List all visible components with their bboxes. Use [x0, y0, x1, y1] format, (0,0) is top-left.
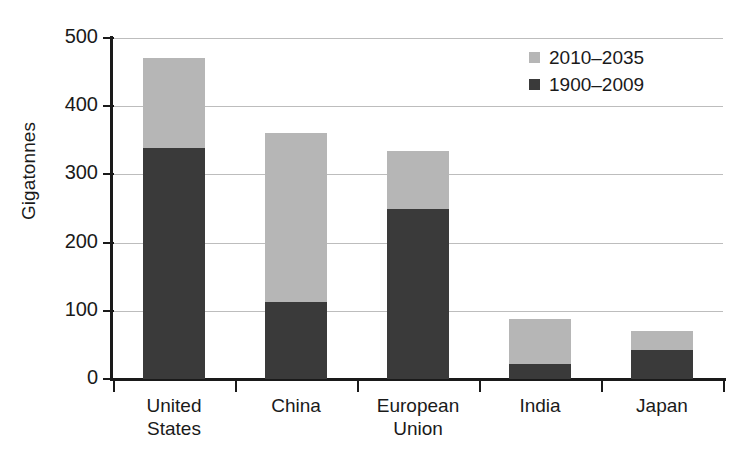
bar-segment-2010-2035 [631, 331, 693, 349]
bar-segment-2010-2035 [509, 319, 571, 364]
category-label-line: States [113, 417, 235, 440]
category-label-line: China [235, 394, 357, 417]
x-tick-mark [723, 381, 725, 392]
category-label-line: Union [357, 417, 479, 440]
bar-united-states [143, 58, 205, 379]
bar-segment-2010-2035 [143, 58, 205, 148]
stacked-bar-chart: Gigatonnes 0100200300400500 UnitedStates… [0, 0, 747, 464]
y-tick-label: 400 [40, 93, 98, 116]
category-label-line: Japan [601, 394, 723, 417]
bar-european-union [387, 151, 449, 379]
x-tick-mark [479, 381, 481, 392]
category-label-line: European [357, 394, 479, 417]
category-label-line: United [113, 394, 235, 417]
x-tick-mark [113, 381, 115, 392]
bar-segment-2010-2035 [265, 133, 327, 301]
y-tick-label: 100 [40, 298, 98, 321]
bar-segment-1900-2009 [509, 364, 571, 379]
category-label-india: India [479, 394, 601, 417]
bar-segment-1900-2009 [265, 302, 327, 379]
y-tick-label: 200 [40, 230, 98, 253]
legend-swatch-light [529, 52, 540, 63]
legend-item: 1900–2009 [529, 71, 719, 98]
category-label-japan: Japan [601, 394, 723, 417]
bar-segment-2010-2035 [387, 151, 449, 209]
y-tick-label: 0 [40, 366, 98, 389]
legend-swatch-dark [529, 79, 540, 90]
legend: 2010–20351900–2009 [529, 44, 719, 98]
y-tick-label: 300 [40, 161, 98, 184]
x-tick-mark [235, 381, 237, 392]
bar-india [509, 319, 571, 379]
category-label-china: China [235, 394, 357, 417]
y-axis-title: Gigatonnes [18, 96, 40, 246]
legend-item: 2010–2035 [529, 44, 719, 71]
bar-japan [631, 331, 693, 379]
legend-label: 1900–2009 [549, 74, 644, 96]
bar-segment-1900-2009 [143, 148, 205, 379]
category-label-line: India [479, 394, 601, 417]
bar-segment-1900-2009 [387, 209, 449, 380]
bar-china [265, 133, 327, 379]
bar-segment-1900-2009 [631, 350, 693, 379]
y-tick-label: 500 [40, 25, 98, 48]
legend-label: 2010–2035 [549, 47, 644, 69]
x-tick-mark [601, 381, 603, 392]
x-tick-mark [357, 381, 359, 392]
category-label-european-union: EuropeanUnion [357, 394, 479, 440]
category-label-united-states: UnitedStates [113, 394, 235, 440]
